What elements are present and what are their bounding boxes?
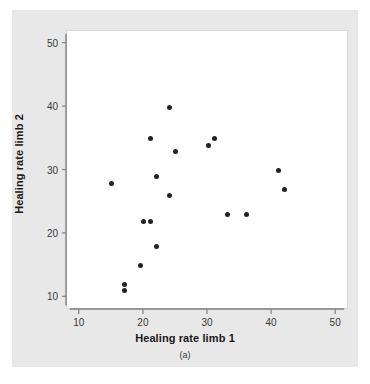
y-tick-label: 50 bbox=[20, 37, 58, 48]
scatter-point bbox=[173, 149, 178, 154]
scatter-point bbox=[167, 105, 172, 110]
scatter-point bbox=[122, 282, 127, 287]
scatter-point bbox=[148, 219, 153, 224]
scatter-point bbox=[109, 181, 114, 186]
scatter-point bbox=[206, 143, 211, 148]
scatter-point bbox=[154, 174, 159, 179]
x-tick-label: 20 bbox=[137, 317, 148, 328]
scatter-point bbox=[122, 288, 127, 293]
y-axis-label: Healing rate limb 2 bbox=[13, 114, 25, 214]
scatter-point bbox=[167, 193, 172, 198]
scatter-point bbox=[276, 168, 281, 173]
y-tick-label: 10 bbox=[20, 291, 58, 302]
plot-area bbox=[66, 30, 348, 309]
scatter-point bbox=[212, 136, 217, 141]
x-tick-label: 50 bbox=[330, 317, 341, 328]
x-tick-label: 40 bbox=[266, 317, 277, 328]
scatter-point bbox=[148, 136, 153, 141]
x-axis-label: Healing rate limb 1 bbox=[0, 332, 370, 344]
x-tick-label: 30 bbox=[201, 317, 212, 328]
scatter-point bbox=[282, 187, 287, 192]
figure-caption: (a) bbox=[0, 350, 370, 360]
scatter-point bbox=[141, 219, 146, 224]
x-tick-label: 10 bbox=[73, 317, 84, 328]
figure-panel-a: 1020304050 1020304050 Healing rate limb … bbox=[0, 0, 370, 384]
scatter-point bbox=[244, 212, 249, 217]
scatter-point bbox=[225, 212, 230, 217]
scatter-point bbox=[138, 263, 143, 268]
y-axis-label-wrapper: Healing rate limb 2 bbox=[9, 84, 27, 244]
scatter-point bbox=[154, 244, 159, 249]
